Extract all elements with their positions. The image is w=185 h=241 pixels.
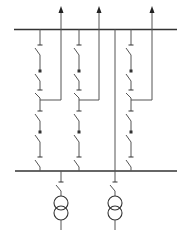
disconnector-4 — [126, 107, 134, 124]
transformers — [54, 171, 122, 230]
disconnector-1 — [126, 41, 134, 58]
switch-blade-icon — [126, 48, 131, 55]
switch-blade-icon — [110, 185, 115, 191]
transformer-1 — [54, 171, 68, 230]
switch-blade-icon — [126, 114, 131, 121]
feeder-2 — [74, 6, 102, 171]
switch-blade-icon — [74, 74, 79, 81]
breaker-contact-icon — [78, 70, 81, 73]
feeder-1 — [35, 6, 64, 171]
switch-blade-icon — [35, 48, 40, 55]
switch-blade-icon — [35, 74, 40, 81]
arrow-up-icon — [97, 6, 102, 13]
switch-blade-icon — [126, 135, 131, 142]
transformer-disconnector — [110, 178, 118, 193]
breaker-contact-icon — [130, 70, 133, 73]
single-line-diagram — [0, 0, 185, 241]
switch-blade-icon — [74, 160, 79, 167]
disconnector-3 — [35, 87, 43, 100]
feeders — [35, 6, 155, 171]
breaker-2 — [74, 67, 81, 84]
disconnector-3 — [126, 87, 134, 100]
feeder-3 — [126, 6, 155, 171]
breaker-2 — [35, 67, 42, 84]
disconnector-1 — [35, 41, 43, 58]
breaker-5 — [35, 128, 42, 145]
switch-blade-icon — [74, 48, 79, 55]
disconnector-1 — [74, 41, 82, 58]
breaker-contact-icon — [39, 70, 42, 73]
switch-blade-icon — [126, 93, 131, 98]
switch-blade-icon — [35, 135, 40, 142]
arrow-up-icon — [150, 6, 155, 13]
transformer-winding-icon — [54, 206, 68, 220]
switch-blade-icon — [126, 160, 131, 167]
breaker-5 — [74, 128, 81, 145]
disconnector-6 — [35, 153, 43, 170]
switch-blade-icon — [35, 114, 40, 121]
switch-blade-icon — [74, 135, 79, 142]
transformer-winding-icon — [108, 206, 122, 220]
breaker-5 — [126, 128, 133, 145]
switch-blade-icon — [35, 93, 40, 98]
breaker-contact-icon — [78, 131, 81, 134]
arrow-up-icon — [59, 6, 64, 13]
disconnector-4 — [35, 107, 43, 124]
switch-blade-icon — [35, 160, 40, 167]
switch-blade-icon — [74, 93, 79, 98]
breaker-contact-icon — [39, 131, 42, 134]
disconnector-4 — [74, 107, 82, 124]
breaker-contact-icon — [130, 131, 133, 134]
switch-blade-icon — [126, 74, 131, 81]
breaker-2 — [126, 67, 133, 84]
disconnector-6 — [74, 153, 82, 170]
switch-blade-icon — [56, 185, 61, 191]
diagram-canvas — [0, 0, 185, 241]
disconnector-3 — [74, 87, 82, 100]
transformer-2 — [108, 171, 122, 230]
switch-blade-icon — [74, 114, 79, 121]
disconnector-6 — [126, 153, 134, 170]
transformer-disconnector — [56, 178, 64, 193]
